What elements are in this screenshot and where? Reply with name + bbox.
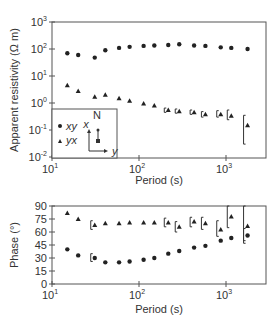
yx-data-point — [65, 83, 70, 87]
svg-text:101: 101 — [42, 288, 58, 301]
yx-data-point — [192, 219, 197, 224]
svg-text:15: 15 — [35, 265, 47, 277]
xy-data-point — [229, 236, 233, 240]
yx-data-point — [127, 220, 132, 225]
xy-data-point — [127, 259, 131, 263]
yx-data-point — [152, 103, 157, 108]
yx-data-point — [65, 210, 70, 215]
xy-data-point — [103, 48, 107, 52]
xy-data-point — [177, 249, 181, 253]
svg-text:101: 101 — [42, 162, 58, 175]
xy-data-point — [219, 238, 223, 242]
yx-data-point — [117, 221, 122, 226]
svg-text:10-2: 10-2 — [29, 150, 48, 163]
yx-data-point — [152, 220, 157, 225]
svg-text:100: 100 — [31, 96, 47, 109]
yx-data-point — [229, 214, 234, 219]
yx-data-point — [92, 94, 97, 99]
xy-data-point — [192, 245, 196, 249]
svg-text:101: 101 — [31, 69, 47, 82]
yx-data-point — [76, 217, 81, 222]
phase-x-label: Period (s) — [135, 303, 183, 315]
resistivity-x-label: Period (s) — [135, 174, 183, 186]
yx-data-point — [245, 223, 250, 228]
xy-data-point — [152, 256, 156, 260]
yx-data-point — [76, 88, 81, 93]
yx-data-point — [218, 227, 223, 232]
xy-data-point — [219, 45, 223, 49]
yx-data-point — [92, 223, 97, 228]
legend-yx-label: yx — [65, 134, 78, 146]
svg-text:103: 103 — [216, 162, 232, 175]
legend-inset: xy yx N x y — [52, 109, 119, 158]
xy-data-point — [177, 42, 181, 46]
xy-data-point — [93, 55, 97, 59]
yx-data-point — [203, 112, 208, 117]
xy-data-point — [141, 44, 145, 48]
xy-data-point — [245, 233, 249, 237]
phase-y-label: Phase (°) — [8, 222, 20, 268]
xy-data-point — [76, 253, 80, 257]
yx-data-point — [218, 112, 223, 117]
svg-text:60: 60 — [35, 226, 47, 238]
xy-data-point — [152, 43, 156, 47]
phase-series — [65, 206, 250, 265]
svg-text:10-1: 10-1 — [29, 123, 48, 136]
svg-text:102: 102 — [129, 288, 145, 301]
legend-xy-label: xy — [65, 120, 79, 132]
yx-data-point — [177, 109, 182, 114]
svg-text:103: 103 — [31, 15, 47, 28]
xy-data-point — [76, 53, 80, 57]
mt-sounding-figure: 10-210-1100101102103 101102103 Apparent … — [0, 0, 276, 324]
xy-data-point — [117, 260, 121, 264]
svg-text:90: 90 — [35, 200, 47, 212]
yx-data-point — [229, 113, 234, 118]
xy-data-point — [229, 46, 233, 50]
yx-data-point — [166, 220, 171, 225]
xy-data-point — [65, 247, 69, 251]
yx-data-point — [245, 123, 250, 128]
xy-data-point — [117, 46, 121, 50]
xy-data-point — [141, 258, 145, 262]
xy-data-point — [103, 260, 107, 264]
xy-data-point — [65, 51, 69, 55]
xy-data-point — [203, 244, 207, 248]
xy-data-point — [166, 251, 170, 255]
resistivity-y-axis: 10-210-1100101102103 — [29, 15, 55, 163]
compass-north-label: N — [93, 109, 101, 121]
svg-text:45: 45 — [35, 239, 47, 251]
yx-data-point — [166, 108, 171, 113]
compass-y-label: y — [111, 145, 119, 157]
svg-text:75: 75 — [35, 213, 47, 225]
xy-data-point — [203, 44, 207, 48]
yx-data-point — [203, 221, 208, 226]
xy-data-point — [127, 45, 131, 49]
yx-data-point — [117, 96, 122, 101]
svg-text:103: 103 — [216, 288, 232, 301]
xy-data-point — [192, 43, 196, 47]
yx-data-point — [192, 110, 197, 114]
compass-x-label: x — [82, 118, 89, 130]
legend-circle-marker-icon — [58, 124, 62, 128]
yx-data-point — [141, 101, 146, 106]
yx-data-point — [177, 224, 182, 229]
xy-data-point — [93, 256, 97, 260]
xy-data-point — [166, 43, 170, 47]
phase-plot-frame — [52, 206, 266, 284]
svg-text:30: 30 — [35, 252, 47, 264]
resistivity-y-label: Apparent resistivity (Ω m) — [8, 28, 20, 152]
svg-text:102: 102 — [31, 42, 47, 55]
xy-data-point — [245, 47, 249, 51]
yx-data-point — [141, 220, 146, 225]
yx-data-point — [103, 92, 108, 97]
yx-data-point — [127, 98, 132, 103]
yx-data-point — [103, 221, 108, 226]
